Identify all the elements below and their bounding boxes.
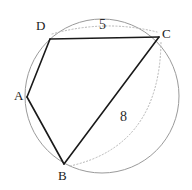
segment-DC [50,37,159,39]
length-label-bc: 8 [120,110,127,124]
segment-AB [27,97,64,164]
geometry-diagram: A B C D 5 8 [0,0,192,190]
vertex-label-C: C [162,27,171,40]
measure-arc-BC [70,41,161,166]
length-label-dc: 5 [99,18,106,32]
vertex-label-A: A [14,89,23,102]
segment-BC [64,37,159,164]
vertex-label-D: D [36,19,45,32]
vertex-label-B: B [58,169,67,182]
